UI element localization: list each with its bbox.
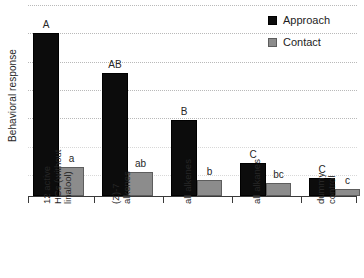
x-axis-category-label-line: all alkanes bbox=[252, 130, 263, 204]
contact-significance-label: bc bbox=[263, 170, 294, 180]
contact-bar[interactable] bbox=[197, 180, 222, 196]
x-axis-tick bbox=[28, 197, 29, 203]
approach-significance-label: B bbox=[171, 107, 197, 117]
x-axis-category-label-line: alkenes bbox=[122, 130, 133, 204]
y-axis-title: Behavioral response bbox=[7, 26, 18, 166]
bar-group: B b bbox=[166, 0, 228, 196]
black-square-swatch-icon bbox=[268, 16, 277, 25]
approach-significance-label: A bbox=[33, 20, 59, 30]
legend-item-label: Approach bbox=[283, 14, 330, 26]
x-axis-category-label-line: 12 active bbox=[42, 130, 53, 204]
x-axis-category-label-line: (Z)-7 bbox=[111, 130, 122, 204]
contact-bar[interactable] bbox=[335, 189, 360, 196]
x-axis-category-label-line: all alkenes bbox=[183, 130, 194, 204]
contact-bar[interactable] bbox=[266, 183, 291, 196]
legend-item-contact[interactable]: Contact bbox=[268, 36, 357, 48]
legend-item-label: Contact bbox=[283, 36, 321, 48]
x-axis-tick bbox=[232, 197, 233, 203]
legend-item-approach[interactable]: Approach bbox=[268, 14, 357, 26]
x-axis-category-label-line: linalool) bbox=[63, 130, 74, 204]
contact-significance-label: c bbox=[335, 176, 360, 186]
x-axis-category-label-line: dummy bbox=[316, 130, 327, 204]
x-axis-tick bbox=[163, 197, 164, 203]
chart-legend: Approach Contact bbox=[268, 14, 357, 58]
x-axis-tick bbox=[301, 197, 302, 203]
gray-square-swatch-icon bbox=[268, 38, 277, 47]
approach-significance-label: AB bbox=[97, 60, 133, 70]
x-axis-tick bbox=[94, 197, 95, 203]
y-axis-title-container: Behavioral response bbox=[0, 0, 22, 196]
contact-significance-label: b bbox=[197, 167, 222, 177]
x-axis-tick bbox=[356, 197, 357, 203]
x-axis-category-label-line: control bbox=[327, 130, 338, 204]
